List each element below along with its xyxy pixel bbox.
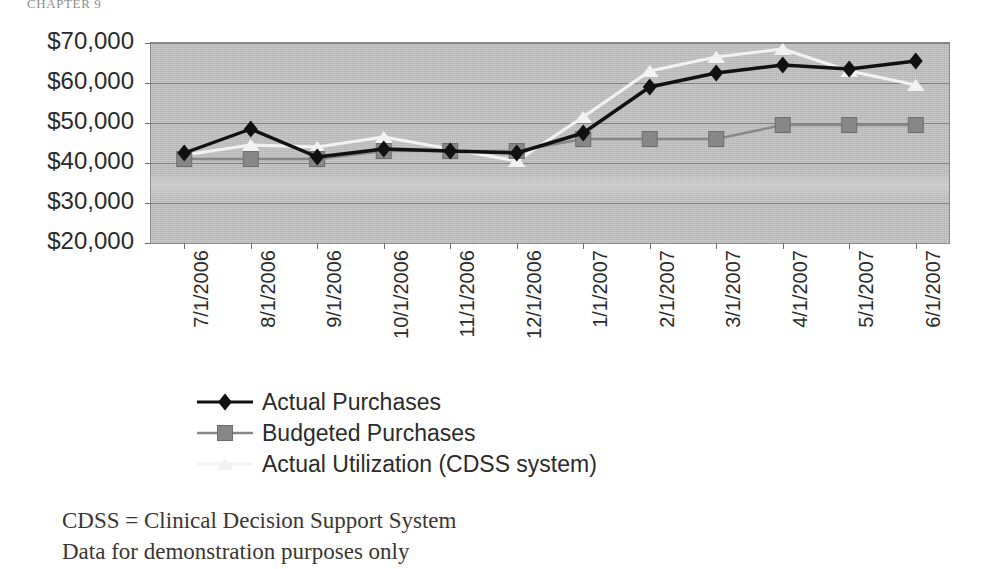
- series-3: [175, 43, 925, 167]
- x-axis-tick-label: 7/1/2006: [191, 250, 211, 360]
- diamond-marker-icon: [196, 390, 254, 414]
- triangle-marker-icon: [196, 452, 254, 476]
- data-point-marker: [909, 53, 923, 70]
- data-point-marker: [775, 118, 790, 133]
- x-tick-mark: [583, 243, 584, 249]
- x-tick-mark: [783, 243, 784, 249]
- y-axis-tick-label: $20,000: [12, 229, 134, 253]
- y-axis-tick-label: $60,000: [12, 69, 134, 93]
- y-tick-mark: [145, 243, 151, 244]
- x-axis-tick-label: 6/1/2007: [923, 250, 943, 360]
- legend-item-label: Budgeted Purchases: [262, 420, 476, 446]
- x-axis-tick-label: 8/1/2006: [258, 250, 278, 360]
- y-axis-tick-label: $40,000: [12, 149, 134, 173]
- chart-legend: Actual PurchasesBudgeted PurchasesActual…: [196, 386, 756, 479]
- x-axis-tick-label: 2/1/2007: [657, 250, 677, 360]
- x-axis-tick-label: 5/1/2007: [856, 250, 876, 360]
- x-tick-mark: [916, 243, 917, 249]
- x-tick-mark: [716, 243, 717, 249]
- data-point-marker: [776, 57, 790, 74]
- line-chart-figure: $70,000$60,000$50,000$40,000$30,000$20,0…: [0, 0, 997, 569]
- x-tick-mark: [251, 243, 252, 249]
- x-tick-mark: [849, 243, 850, 249]
- series-layer: [151, 43, 949, 243]
- x-axis-tick-label: 9/1/2006: [324, 250, 344, 360]
- series-1: [177, 53, 922, 166]
- figure-footnotes: CDSS = Clinical Decision Support SystemD…: [62, 505, 456, 567]
- x-axis-tick-label: 12/1/2006: [524, 250, 544, 360]
- x-tick-mark: [384, 243, 385, 249]
- x-axis-tick-label: 4/1/2007: [790, 250, 810, 360]
- data-point-marker: [908, 118, 923, 133]
- x-tick-mark: [317, 243, 318, 249]
- x-tick-mark: [450, 243, 451, 249]
- data-point-marker: [244, 121, 258, 138]
- square-marker-icon: [196, 421, 254, 445]
- footnote-line: CDSS = Clinical Decision Support System: [62, 505, 456, 536]
- plot-area: [150, 42, 950, 244]
- legend-item[interactable]: Budgeted Purchases: [196, 417, 756, 448]
- legend-item[interactable]: Actual Purchases: [196, 386, 756, 417]
- y-axis-tick-label: $50,000: [12, 109, 134, 133]
- data-point-marker: [243, 152, 258, 167]
- x-tick-mark: [184, 243, 185, 249]
- x-axis-tick-label: 3/1/2007: [723, 250, 743, 360]
- y-axis-tick-label: $70,000: [12, 29, 134, 53]
- x-tick-mark: [517, 243, 518, 249]
- x-axis-tick-label: 10/1/2006: [391, 250, 411, 360]
- series-line: [184, 61, 916, 157]
- footnote-line: Data for demonstration purposes only: [62, 536, 456, 567]
- data-point-marker: [709, 65, 723, 82]
- data-point-marker: [642, 132, 657, 147]
- legend-item-label: Actual Purchases: [262, 389, 441, 415]
- x-axis-tick-label: 1/1/2007: [590, 250, 610, 360]
- legend-item-label: Actual Utilization (CDSS system): [262, 451, 597, 477]
- x-tick-mark: [650, 243, 651, 249]
- data-point-marker: [842, 118, 857, 133]
- legend-item[interactable]: Actual Utilization (CDSS system): [196, 448, 756, 479]
- x-axis-tick-label: 11/1/2006: [457, 250, 477, 360]
- y-axis-tick-label: $30,000: [12, 189, 134, 213]
- data-point-marker: [709, 132, 724, 147]
- y-axis-tick-labels: $70,000$60,000$50,000$40,000$30,000$20,0…: [12, 0, 134, 280]
- data-point-marker: [643, 79, 657, 96]
- x-axis-tick-labels: 7/1/20068/1/20069/1/200610/1/200611/1/20…: [150, 250, 948, 360]
